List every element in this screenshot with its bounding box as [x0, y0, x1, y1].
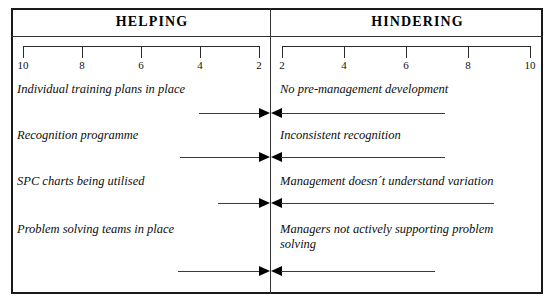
- scale-helping: 108642: [23, 46, 259, 62]
- hindering-factor-label: No pre-management development: [280, 82, 538, 97]
- hindering-scale-tick-label: 6: [395, 59, 417, 71]
- helping-scale-tick: [141, 46, 142, 58]
- arrow-shaft: [281, 113, 445, 114]
- helping-force-arrow: [218, 198, 270, 209]
- hindering-scale-tick-label: 8: [457, 59, 479, 71]
- hindering-scale-tick: [530, 46, 531, 58]
- hindering-scale-tick-label: 4: [333, 59, 355, 71]
- helping-scale-tick-label: 10: [12, 59, 34, 71]
- hindering-factor-label: Managers not actively supporting problem…: [280, 222, 538, 252]
- hindering-scale-tick: [468, 46, 469, 58]
- hindering-force-arrow: [271, 198, 494, 209]
- force-field-diagram: HELPING HINDERING 108642 246810 Individu…: [0, 0, 554, 303]
- hindering-scale-tick-label: 2: [271, 59, 293, 71]
- helping-scale-tick: [259, 46, 260, 58]
- arrow-shaft: [281, 157, 445, 158]
- arrow-shaft: [178, 271, 260, 272]
- hindering-scale-tick: [344, 46, 345, 58]
- helping-factor-label: Individual training plans in place: [17, 82, 265, 97]
- arrow-shaft: [281, 271, 435, 272]
- hindering-scale-tick: [282, 46, 283, 58]
- header-band: HELPING HINDERING: [11, 8, 543, 36]
- hindering-factor-label: Inconsistent recognition: [280, 128, 538, 143]
- arrow-shaft: [199, 113, 260, 114]
- helping-factor-label: Recognition programme: [17, 128, 265, 143]
- arrow-head-right-icon: [259, 198, 270, 208]
- arrow-head-right-icon: [259, 108, 270, 118]
- arrow-head-right-icon: [259, 266, 270, 276]
- helping-scale-tick-label: 8: [71, 59, 93, 71]
- helping-factor-label: SPC charts being utilised: [17, 174, 265, 189]
- hindering-scale-tick-label: 10: [519, 59, 541, 71]
- helping-force-arrow: [178, 266, 270, 277]
- helping-scale-tick: [23, 46, 24, 58]
- column-header-helping: HELPING: [24, 14, 280, 30]
- helping-scale-tick-label: 6: [130, 59, 152, 71]
- center-axis-divider: [270, 8, 271, 294]
- hindering-force-arrow: [271, 108, 445, 119]
- helping-force-arrow: [180, 152, 270, 163]
- column-header-hindering: HINDERING: [282, 14, 553, 30]
- hindering-force-arrow: [271, 152, 445, 163]
- helping-force-arrow: [199, 108, 270, 119]
- hindering-force-arrow: [271, 266, 435, 277]
- hindering-factor-label: Management doesn´t understand variation: [280, 174, 538, 189]
- arrow-shaft: [218, 203, 260, 204]
- arrow-shaft: [281, 203, 494, 204]
- helping-scale-tick: [82, 46, 83, 58]
- hindering-scale-tick: [406, 46, 407, 58]
- header-divider-line: [11, 36, 543, 37]
- helping-scale-tick-label: 4: [189, 59, 211, 71]
- scale-hindering: 246810: [282, 46, 530, 62]
- arrow-shaft: [180, 157, 260, 158]
- helping-scale-tick-label: 2: [248, 59, 270, 71]
- helping-scale-tick: [200, 46, 201, 58]
- arrow-head-right-icon: [259, 152, 270, 162]
- helping-factor-label: Problem solving teams in place: [17, 222, 265, 237]
